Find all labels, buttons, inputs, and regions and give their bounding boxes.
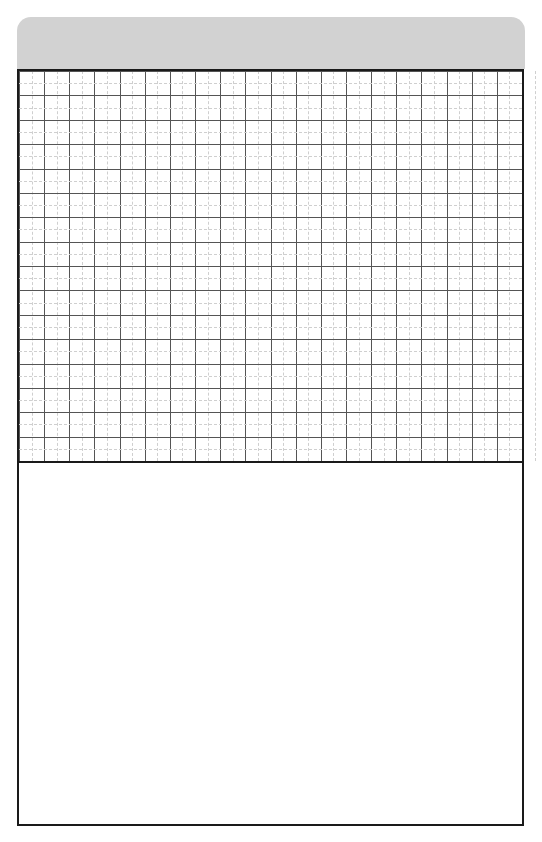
grid-minor-vertical-line <box>157 71 158 461</box>
grid-major-vertical-line <box>170 71 171 461</box>
grid-minor-vertical-line <box>459 71 460 461</box>
grid-major-horizontal-line <box>19 120 522 121</box>
grid-minor-vertical-line <box>409 71 410 461</box>
grid-major-vertical-line <box>195 71 196 461</box>
grid-minor-horizontal-line <box>19 449 522 450</box>
blank-writing-area[interactable] <box>19 463 522 824</box>
grid-major-vertical-line <box>220 71 221 461</box>
grid-minor-horizontal-line <box>19 376 522 377</box>
grid-major-vertical-line <box>19 71 20 461</box>
grid-major-vertical-line <box>245 71 246 461</box>
grid-minor-horizontal-line <box>19 229 522 230</box>
grid-major-vertical-line <box>472 71 473 461</box>
grid-minor-vertical-line <box>208 71 209 461</box>
grid-major-vertical-line <box>44 71 45 461</box>
grid-minor-horizontal-line <box>19 83 522 84</box>
grid-major-horizontal-line <box>19 169 522 170</box>
grid-minor-vertical-line <box>57 71 58 461</box>
grid-major-vertical-line <box>371 71 372 461</box>
grid-minor-vertical-line <box>182 71 183 461</box>
grid-minor-vertical-line <box>283 71 284 461</box>
grid-minor-vertical-line <box>233 71 234 461</box>
grid-major-vertical-line <box>145 71 146 461</box>
grid-major-vertical-line <box>321 71 322 461</box>
graph-grid[interactable] <box>19 71 522 463</box>
grid-major-vertical-line <box>421 71 422 461</box>
grid-minor-vertical-line <box>509 71 510 461</box>
grid-minor-horizontal-line <box>19 424 522 425</box>
grid-major-horizontal-line <box>19 364 522 365</box>
grid-minor-horizontal-line <box>19 351 522 352</box>
page-sheet <box>0 0 542 842</box>
grid-minor-vertical-line <box>32 71 33 461</box>
grid-minor-horizontal-line <box>19 254 522 255</box>
grid-major-vertical-line <box>396 71 397 461</box>
grid-major-vertical-line <box>296 71 297 461</box>
grid-major-horizontal-line <box>19 242 522 243</box>
grid-major-horizontal-line <box>19 315 522 316</box>
grid-minor-vertical-line <box>384 71 385 461</box>
grid-minor-horizontal-line <box>19 108 522 109</box>
grid-major-horizontal-line <box>19 266 522 267</box>
grid-major-horizontal-line <box>19 339 522 340</box>
grid-minor-horizontal-line <box>19 278 522 279</box>
grid-major-horizontal-line <box>19 388 522 389</box>
grid-minor-horizontal-line <box>19 181 522 182</box>
grid-minor-vertical-line <box>258 71 259 461</box>
grid-major-horizontal-line <box>19 95 522 96</box>
grid-major-vertical-line <box>69 71 70 461</box>
grid-major-horizontal-line <box>19 193 522 194</box>
grid-minor-horizontal-line <box>19 327 522 328</box>
grid-minor-vertical-line <box>359 71 360 461</box>
document-frame <box>17 69 524 826</box>
grid-major-horizontal-line <box>19 437 522 438</box>
grid-minor-horizontal-line <box>19 400 522 401</box>
grid-minor-vertical-line <box>308 71 309 461</box>
grid-minor-horizontal-line <box>19 156 522 157</box>
grid-major-vertical-line <box>120 71 121 461</box>
grid-minor-vertical-line <box>107 71 108 461</box>
grid-minor-vertical-line <box>484 71 485 461</box>
grid-major-vertical-line <box>447 71 448 461</box>
grid-minor-vertical-line <box>434 71 435 461</box>
grid-minor-horizontal-line <box>19 132 522 133</box>
grid-major-horizontal-line <box>19 144 522 145</box>
header-tab <box>17 17 525 69</box>
grid-major-horizontal-line <box>19 290 522 291</box>
grid-minor-horizontal-line <box>19 205 522 206</box>
grid-major-vertical-line <box>497 71 498 461</box>
grid-major-vertical-line <box>271 71 272 461</box>
grid-minor-vertical-line <box>82 71 83 461</box>
grid-major-horizontal-line <box>19 412 522 413</box>
grid-major-vertical-line <box>346 71 347 461</box>
grid-major-horizontal-line <box>19 71 522 72</box>
grid-minor-vertical-line <box>535 71 536 461</box>
grid-minor-horizontal-line <box>19 303 522 304</box>
grid-major-horizontal-line <box>19 217 522 218</box>
grid-minor-vertical-line <box>132 71 133 461</box>
grid-major-vertical-line <box>94 71 95 461</box>
grid-minor-vertical-line <box>333 71 334 461</box>
